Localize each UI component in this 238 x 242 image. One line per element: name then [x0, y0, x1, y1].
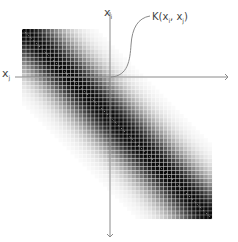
kernel-matrix-diagram: xj xi K(xi, xj) [0, 0, 238, 242]
kernel-function-label: K(xi, xj) [152, 11, 188, 25]
axis-label-xj: xj [2, 67, 11, 82]
axis-label-xi: xi [104, 6, 113, 20]
